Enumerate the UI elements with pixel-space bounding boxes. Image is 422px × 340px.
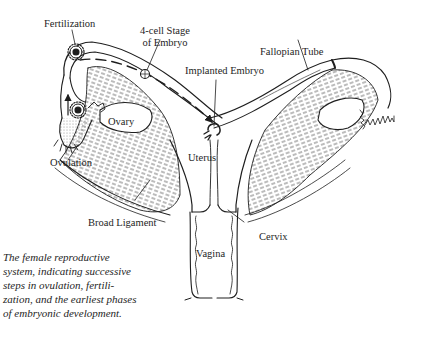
label-vagina: Vagina (196, 248, 225, 260)
caption-line: steps in ovulation, fertili- (3, 278, 163, 292)
label-broad-ligament: Broad Ligament (88, 217, 157, 229)
figure-caption: The female reproductive system, indicati… (3, 250, 163, 320)
label-four-cell-stage-line2: of Embryo (130, 37, 200, 49)
label-four-cell-stage-line1: 4-cell Stage (130, 25, 200, 37)
four-cell-embryo (141, 70, 150, 79)
label-four-cell-stage: 4-cell Stage of Embryo (130, 25, 200, 49)
label-implanted-embryo: Implanted Embryo (185, 65, 264, 77)
label-ovulation: Ovulation (50, 157, 92, 169)
right-broad-ligament (245, 70, 378, 222)
implanted-embryo (204, 124, 220, 140)
label-fallopian-tube: Fallopian Tube (260, 46, 323, 58)
uterus (170, 140, 252, 212)
caption-line: system, indicating successive (3, 264, 163, 278)
caption-line: zation, and the earliest phases (3, 292, 163, 306)
label-uterus: Uterus (188, 152, 216, 164)
caption-line: The female reproductive (3, 250, 163, 264)
fertilized-egg (68, 44, 84, 60)
caption-line: of embryonic development. (3, 306, 163, 320)
label-cervix: Cervix (259, 231, 288, 243)
label-ovary: Ovary (108, 116, 134, 128)
label-fertilization: Fertilization (44, 18, 95, 30)
ovulated-egg (70, 102, 86, 118)
